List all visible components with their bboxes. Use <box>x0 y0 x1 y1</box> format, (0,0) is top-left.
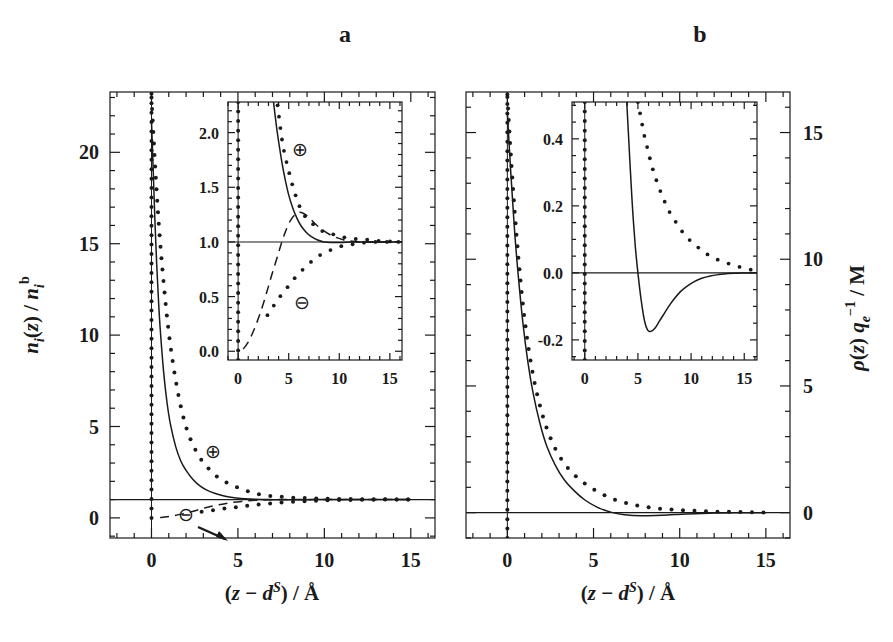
data-point <box>505 489 509 493</box>
data-point <box>318 253 322 257</box>
data-point <box>505 328 509 332</box>
data-point <box>583 348 587 352</box>
data-point <box>236 348 240 352</box>
data-point <box>166 325 170 329</box>
data-point <box>544 426 548 430</box>
data-point <box>236 186 240 190</box>
data-point <box>149 261 153 265</box>
data-point <box>505 310 509 314</box>
data-point <box>236 262 240 266</box>
data-point <box>199 458 203 462</box>
data-point <box>553 447 557 451</box>
data-point <box>715 510 719 514</box>
data-point <box>234 505 238 509</box>
data-point <box>674 220 678 224</box>
data-point <box>505 394 509 398</box>
data-point <box>583 358 587 362</box>
data-point <box>505 536 509 540</box>
data-point <box>583 329 587 333</box>
inset-background <box>228 102 402 360</box>
inset-minus-annotation: ⊖ <box>294 292 310 313</box>
data-point <box>371 498 375 502</box>
data-point <box>153 153 157 157</box>
data-point <box>406 498 410 502</box>
data-point <box>303 499 307 503</box>
data-point <box>354 237 358 241</box>
data-point <box>397 240 401 244</box>
data-point <box>583 119 587 123</box>
data-point <box>154 176 158 180</box>
y-tick-label: 20 <box>79 141 99 163</box>
data-point <box>583 205 587 209</box>
data-point <box>505 272 509 276</box>
panel-a-inset: 0510150.00.51.01.52.0⊕⊖ <box>199 100 402 387</box>
data-point <box>530 370 534 374</box>
data-point <box>505 527 509 531</box>
data-point <box>583 148 587 152</box>
data-point <box>738 265 742 269</box>
data-point <box>149 101 153 105</box>
inset-y-tick-label: 0.2 <box>543 198 563 215</box>
data-point <box>149 478 153 482</box>
data-point <box>592 488 596 492</box>
data-point <box>342 235 346 239</box>
inset-x-tick-label: 15 <box>382 370 398 387</box>
data-point <box>236 358 240 362</box>
x-tick-label: 5 <box>589 549 599 571</box>
data-point <box>583 243 587 247</box>
data-point <box>280 495 284 499</box>
data-point <box>624 501 628 505</box>
data-point <box>280 138 284 142</box>
inset-y-tick-label: 0.0 <box>543 265 563 282</box>
data-point <box>309 260 313 264</box>
data-point <box>236 110 240 114</box>
data-point <box>257 503 261 507</box>
y-tick-label: 10 <box>79 324 99 346</box>
data-point <box>149 459 153 463</box>
data-point <box>583 481 587 485</box>
data-point <box>668 210 672 214</box>
y-tick-label: 10 <box>803 248 823 270</box>
x-tick-label: 5 <box>233 549 243 571</box>
data-point <box>533 381 537 385</box>
data-point <box>505 461 509 465</box>
data-point <box>523 324 527 328</box>
data-point <box>149 422 153 426</box>
data-point <box>153 164 157 168</box>
data-point <box>159 245 163 249</box>
data-point <box>149 441 153 445</box>
data-point <box>512 198 516 202</box>
inset-y-tick-label: -0.2 <box>538 332 563 349</box>
inset-plus-annotation: ⊕ <box>292 139 308 160</box>
data-point <box>508 141 512 145</box>
inset-x-tick-label: 10 <box>683 370 699 387</box>
data-point <box>149 450 153 454</box>
data-point <box>727 510 731 514</box>
data-point <box>505 262 509 266</box>
data-point <box>514 221 518 225</box>
data-point <box>566 466 570 470</box>
data-point <box>171 359 175 363</box>
data-point <box>211 508 215 512</box>
data-point <box>688 238 692 242</box>
data-point <box>505 451 509 455</box>
data-point <box>749 268 753 272</box>
data-point <box>505 187 509 191</box>
data-point <box>314 499 318 503</box>
data-point <box>193 448 197 452</box>
data-point <box>583 215 587 219</box>
data-point <box>149 327 153 331</box>
data-point <box>727 262 731 266</box>
data-point <box>158 233 162 237</box>
data-point <box>505 498 509 502</box>
data-point <box>696 246 700 250</box>
data-point <box>351 242 355 246</box>
data-point <box>559 457 563 461</box>
data-point <box>692 509 696 513</box>
data-point <box>337 498 341 502</box>
data-point <box>516 256 520 260</box>
data-point <box>149 346 153 350</box>
data-point <box>383 498 387 502</box>
data-point <box>505 479 509 483</box>
data-point <box>278 294 282 298</box>
